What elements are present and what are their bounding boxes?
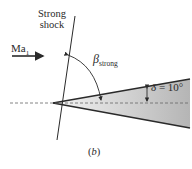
upstream-mach-label: Ma1 [11, 43, 29, 59]
mach-symbol: Ma [11, 42, 26, 54]
strong-shock-line [57, 16, 75, 140]
shock-angle-label: βstrong [93, 54, 118, 69]
figure-caption: (b) [88, 146, 100, 157]
beta-subscript: strong [99, 59, 118, 68]
mach-subscript: 1 [26, 49, 30, 57]
deflection-angle-label: δ = 10° [151, 82, 183, 93]
strong-shock-label-line2: shock [38, 19, 66, 30]
strong-shock-label: Strong shock [38, 8, 66, 30]
delta-value: = 10° [156, 81, 183, 93]
caption-close-paren: ) [97, 146, 101, 157]
strong-shock-label-line1: Strong [38, 8, 66, 19]
